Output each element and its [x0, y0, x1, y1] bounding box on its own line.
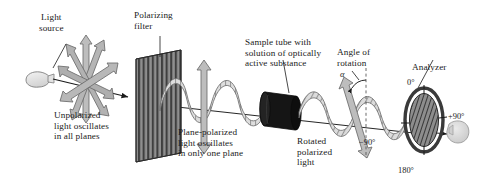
angle-of-rotation-arc	[352, 80, 366, 88]
analyzer-dial	[401, 85, 447, 155]
label-unpolarized: Unpolarized light oscillates in all plan…	[54, 110, 109, 142]
polarizing-filter	[136, 50, 181, 162]
polarimetry-diagram: Light source Polarizing filter Sample tu…	[0, 0, 479, 187]
light-beam-axis	[53, 79, 447, 135]
label-plane-polarized: Plane-polarized light oscillates in only…	[178, 127, 243, 159]
analyzer-label-0: 0°	[407, 78, 415, 87]
label-angle-of-rotation: Angle of rotation	[337, 47, 370, 68]
observer-eye	[447, 121, 469, 143]
label-rotated-polarized: Rotated polarized light	[297, 136, 332, 168]
sample-tube	[260, 92, 301, 130]
analyzer-label-180: 180°	[398, 166, 414, 175]
alpha-symbol: α	[340, 69, 345, 79]
diagram-canvas	[0, 0, 479, 187]
label-polarizing-filter: Polarizing filter	[134, 10, 173, 31]
label-analyzer: Analyzer	[412, 62, 446, 73]
label-light-source: Light source	[39, 12, 64, 33]
light-source-bulb	[26, 72, 54, 87]
analyzer-label-minus-90: −90°	[359, 138, 375, 147]
label-sample-tube: Sample tube with solution of optically a…	[245, 37, 321, 69]
analyzer-label-plus-90: +90°	[448, 112, 464, 121]
